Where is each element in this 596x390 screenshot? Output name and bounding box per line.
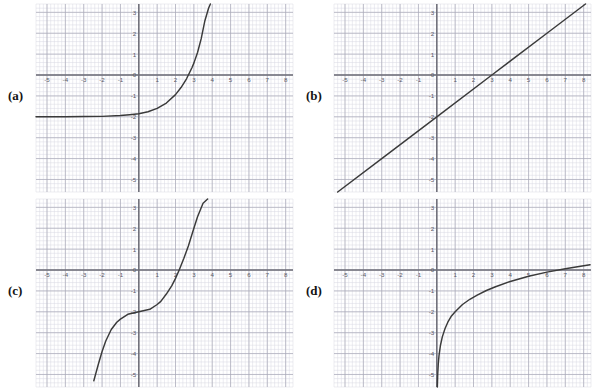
svg-text:7: 7 — [266, 271, 270, 278]
svg-text:8: 8 — [284, 76, 288, 83]
svg-text:8: 8 — [284, 271, 288, 278]
svg-text:-3: -3 — [131, 329, 137, 336]
svg-text:3: 3 — [490, 271, 494, 278]
svg-text:-1: -1 — [131, 92, 137, 99]
svg-text:2: 2 — [174, 76, 178, 83]
svg-text:-4: -4 — [361, 76, 367, 83]
plot-d: -5-4-3-2-1123456783210-1-2-3-4-5 — [298, 195, 596, 390]
svg-text:2: 2 — [133, 225, 137, 232]
svg-text:-3: -3 — [81, 271, 87, 278]
panel-label-b: (b) — [306, 88, 322, 104]
svg-text:-5: -5 — [429, 176, 435, 183]
grid-minor — [36, 4, 293, 192]
panel-label-d: (d) — [306, 283, 322, 299]
panel-a: -5-4-3-2-1123456783210-1-2-3-4-5 (a) — [0, 0, 298, 195]
plot-c: -5-4-3-2-1123456783210-1-2-3-4-5 — [0, 195, 298, 390]
svg-text:-5: -5 — [131, 176, 137, 183]
svg-text:-3: -3 — [429, 134, 435, 141]
svg-text:-4: -4 — [131, 155, 137, 162]
svg-text:7: 7 — [564, 76, 568, 83]
svg-text:-5: -5 — [131, 371, 137, 378]
panel-label-a: (a) — [8, 88, 23, 104]
svg-text:2: 2 — [133, 30, 137, 37]
svg-text:7: 7 — [266, 76, 270, 83]
svg-text:3: 3 — [192, 271, 196, 278]
panel-d: -5-4-3-2-1123456783210-1-2-3-4-5 (d) — [298, 195, 596, 390]
svg-text:-3: -3 — [379, 271, 385, 278]
svg-text:-1: -1 — [429, 287, 435, 294]
svg-text:-2: -2 — [397, 76, 403, 83]
svg-text:1: 1 — [133, 246, 137, 253]
svg-text:-4: -4 — [429, 350, 435, 357]
svg-text:4: 4 — [211, 271, 215, 278]
svg-text:4: 4 — [211, 76, 215, 83]
svg-text:0: 0 — [431, 71, 435, 78]
svg-text:2: 2 — [472, 76, 476, 83]
svg-text:-2: -2 — [99, 76, 105, 83]
svg-text:8: 8 — [582, 271, 586, 278]
svg-text:-3: -3 — [131, 134, 137, 141]
svg-text:7: 7 — [564, 271, 568, 278]
svg-text:6: 6 — [247, 76, 251, 83]
svg-text:0: 0 — [133, 71, 137, 78]
figure-graph-sheet: -5-4-3-2-1123456783210-1-2-3-4-5 (a) -5-… — [0, 0, 596, 390]
curve — [338, 4, 586, 192]
svg-text:8: 8 — [582, 76, 586, 83]
plot-a: -5-4-3-2-1123456783210-1-2-3-4-5 — [0, 0, 298, 195]
svg-text:-2: -2 — [397, 271, 403, 278]
svg-text:2: 2 — [431, 225, 435, 232]
svg-text:-4: -4 — [63, 76, 69, 83]
svg-text:-5: -5 — [44, 76, 50, 83]
svg-text:-3: -3 — [81, 76, 87, 83]
svg-text:4: 4 — [509, 76, 513, 83]
panel-c: -5-4-3-2-1123456783210-1-2-3-4-5 (c) — [0, 195, 298, 390]
svg-text:-1: -1 — [416, 76, 422, 83]
curve-path — [338, 4, 586, 192]
svg-text:3: 3 — [490, 76, 494, 83]
plot-b: -5-4-3-2-1123456783210-1-2-3-4-5 — [298, 0, 596, 195]
svg-text:1: 1 — [453, 76, 457, 83]
svg-text:1: 1 — [155, 271, 159, 278]
svg-text:-3: -3 — [429, 329, 435, 336]
svg-text:3: 3 — [192, 76, 196, 83]
svg-text:-5: -5 — [342, 76, 348, 83]
svg-text:1: 1 — [133, 51, 137, 58]
svg-text:0: 0 — [133, 266, 137, 273]
svg-text:3: 3 — [133, 204, 137, 211]
svg-text:-1: -1 — [131, 287, 137, 294]
grid-minor — [334, 199, 591, 387]
svg-text:-3: -3 — [379, 76, 385, 83]
svg-text:-4: -4 — [361, 271, 367, 278]
svg-text:-4: -4 — [131, 350, 137, 357]
svg-text:-2: -2 — [429, 308, 435, 315]
svg-text:-4: -4 — [63, 271, 69, 278]
svg-text:1: 1 — [155, 76, 159, 83]
svg-text:-4: -4 — [429, 155, 435, 162]
svg-text:3: 3 — [133, 9, 137, 16]
svg-text:0: 0 — [431, 266, 435, 273]
svg-text:3: 3 — [431, 204, 435, 211]
svg-text:-2: -2 — [99, 271, 105, 278]
svg-text:3: 3 — [431, 9, 435, 16]
grid-minor — [36, 199, 293, 387]
svg-text:-5: -5 — [342, 271, 348, 278]
svg-text:-5: -5 — [44, 271, 50, 278]
svg-text:4: 4 — [509, 271, 513, 278]
svg-text:2: 2 — [472, 271, 476, 278]
svg-text:5: 5 — [229, 76, 233, 83]
svg-text:-1: -1 — [118, 76, 124, 83]
svg-text:6: 6 — [247, 271, 251, 278]
svg-text:1: 1 — [431, 51, 435, 58]
svg-text:1: 1 — [453, 271, 457, 278]
svg-text:5: 5 — [527, 76, 531, 83]
svg-text:1: 1 — [431, 246, 435, 253]
panel-label-c: (c) — [8, 283, 22, 299]
svg-text:6: 6 — [545, 76, 549, 83]
svg-text:-1: -1 — [416, 271, 422, 278]
svg-text:-5: -5 — [429, 371, 435, 378]
svg-text:-1: -1 — [118, 271, 124, 278]
svg-text:-1: -1 — [429, 92, 435, 99]
svg-text:2: 2 — [431, 30, 435, 37]
svg-text:5: 5 — [229, 271, 233, 278]
panel-b: -5-4-3-2-1123456783210-1-2-3-4-5 (b) — [298, 0, 596, 195]
